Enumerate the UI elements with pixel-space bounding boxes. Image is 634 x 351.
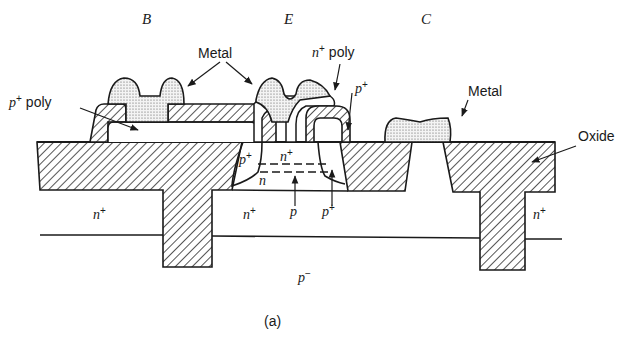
bjt-cross-section-diagram: B E C Metal n+poly p+poly p+ Metal Oxide… <box>0 0 634 351</box>
metal-callout-label: Metal <box>198 45 232 61</box>
collector-metal-callout: Metal <box>468 83 502 99</box>
right-p-plus-poly-arch <box>306 106 350 142</box>
region-n-collector: n <box>259 173 266 188</box>
figure-caption: (a) <box>264 313 281 329</box>
region-p-minus-substrate: p− <box>297 268 311 286</box>
region-n-plus-buried-right: n+ <box>533 205 546 223</box>
region-p-base: p <box>289 204 297 219</box>
right-oxide-isolation <box>443 142 555 270</box>
region-p-plus-base: p+ <box>238 150 252 168</box>
terminal-label-base: B <box>142 11 151 27</box>
collector-metal-contact <box>385 118 451 142</box>
p-plus-poly-callout: p+poly <box>8 93 52 111</box>
region-n-plus-buried-left: n+ <box>93 205 106 223</box>
n-plus-poly-callout: n+poly <box>312 43 355 61</box>
region-p-plus-bottom: p+ <box>321 202 335 220</box>
center-oxide-isolation <box>340 142 412 191</box>
terminal-label-collector: C <box>421 11 432 27</box>
p-plus-top-callout: p+ <box>354 79 368 97</box>
oxide-callout: Oxide <box>578 128 615 144</box>
region-n-plus-buried-mid: n+ <box>243 205 256 223</box>
left-oxide-isolation <box>37 142 242 267</box>
terminal-label-emitter: E <box>283 11 293 27</box>
region-n-plus-emitter: n+ <box>280 147 293 165</box>
